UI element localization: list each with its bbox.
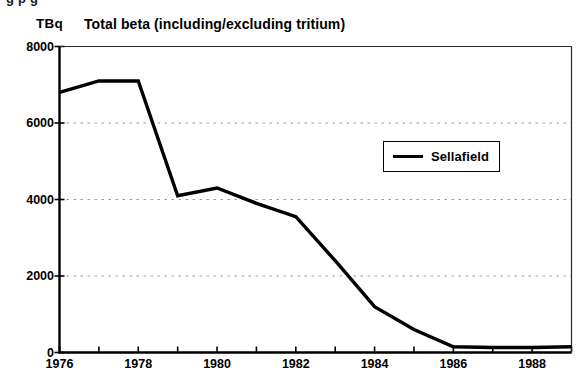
y-tick-label-2000: 2000 xyxy=(0,269,54,283)
y-tick-label-4000: 4000 xyxy=(0,193,54,207)
plot-area xyxy=(0,0,583,390)
x-tick-label-1978: 1978 xyxy=(124,357,152,371)
x-tick-label-1986: 1986 xyxy=(439,357,467,371)
x-tick-label-1976: 1976 xyxy=(46,357,74,371)
x-tick-label-1988: 1988 xyxy=(518,357,546,371)
x-tick-label-1980: 1980 xyxy=(203,357,231,371)
legend: Sellafield xyxy=(383,141,500,172)
series-line-sellafield xyxy=(60,81,572,348)
x-tick-label-1984: 1984 xyxy=(361,357,389,371)
y-tick-label-6000: 6000 xyxy=(0,116,54,130)
legend-swatch-sellafield xyxy=(393,155,423,158)
y-tick-label-8000: 8000 xyxy=(0,40,54,54)
legend-label-sellafield: Sellafield xyxy=(431,149,489,164)
chart-figure: g p g TBq Total beta (including/excludin… xyxy=(0,0,583,390)
x-tick-label-1982: 1982 xyxy=(282,357,310,371)
data-series-lines xyxy=(60,81,572,348)
